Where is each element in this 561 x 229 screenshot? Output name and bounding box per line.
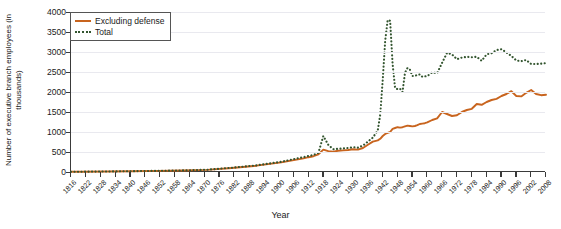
x-axis-tick bbox=[129, 172, 130, 177]
y-axis-tick bbox=[66, 112, 71, 113]
legend-label-total: Total bbox=[95, 27, 113, 37]
gridline bbox=[71, 92, 545, 93]
legend: Excluding defense Total bbox=[70, 12, 171, 41]
gridline bbox=[71, 72, 545, 73]
series-line-excluding-defense bbox=[71, 90, 546, 172]
x-axis-tick bbox=[367, 172, 368, 177]
y-axis-tick bbox=[66, 92, 71, 93]
y-axis-tick-label: 3000 bbox=[26, 47, 66, 57]
x-axis-tick bbox=[85, 172, 86, 177]
x-axis-tick bbox=[70, 172, 71, 177]
x-axis-tick bbox=[337, 172, 338, 177]
x-axis-tick bbox=[397, 172, 398, 177]
x-axis-tick bbox=[263, 172, 264, 177]
y-axis-tick bbox=[66, 72, 71, 73]
x-axis-tick bbox=[174, 172, 175, 177]
x-axis-tick bbox=[115, 172, 116, 177]
x-axis-tick bbox=[204, 172, 205, 177]
chart-root: Number of executive branch employees (in… bbox=[0, 0, 561, 229]
x-axis-tick bbox=[411, 172, 412, 177]
x-axis-tick bbox=[308, 172, 309, 177]
y-axis-title: Number of executive branch employees (in… bbox=[4, 10, 24, 170]
y-axis-tick-label: 1500 bbox=[26, 107, 66, 117]
x-axis-tick bbox=[352, 172, 353, 177]
x-axis-tick bbox=[159, 172, 160, 177]
gridline bbox=[71, 112, 545, 113]
legend-swatch-dotted-icon bbox=[75, 31, 91, 33]
gridline bbox=[71, 152, 545, 153]
y-axis-tick-label: 3500 bbox=[26, 27, 66, 37]
y-axis-tick bbox=[66, 52, 71, 53]
x-axis-tick bbox=[218, 172, 219, 177]
y-axis-tick-label: 4000 bbox=[26, 7, 66, 17]
y-axis-tick-label: 1000 bbox=[26, 127, 66, 137]
gridline bbox=[71, 52, 545, 53]
y-axis-tick-labels: 05001000150020002500300035004000 bbox=[26, 12, 66, 172]
x-axis-title: Year bbox=[0, 210, 561, 220]
x-axis-tick bbox=[530, 172, 531, 177]
legend-item-total: Total bbox=[75, 26, 164, 37]
x-axis-tick-labels: 1816182218281834184018461852185818641870… bbox=[70, 178, 545, 210]
y-axis-title-wrap: Number of executive branch employees (in… bbox=[2, 10, 26, 170]
legend-label-excluding-defense: Excluding defense bbox=[95, 16, 164, 26]
x-axis-tick bbox=[471, 172, 472, 177]
x-axis-tick bbox=[189, 172, 190, 177]
x-axis-tick bbox=[382, 172, 383, 177]
x-axis-tick bbox=[278, 172, 279, 177]
x-axis-tick bbox=[293, 172, 294, 177]
x-axis-tick bbox=[500, 172, 501, 177]
series-line-total bbox=[71, 20, 546, 172]
y-axis-tick-label: 0 bbox=[26, 167, 66, 177]
x-axis-tick bbox=[486, 172, 487, 177]
legend-swatch-solid-icon bbox=[75, 20, 91, 22]
x-axis-tick bbox=[100, 172, 101, 177]
x-axis-tick bbox=[322, 172, 323, 177]
legend-item-excluding-defense: Excluding defense bbox=[75, 15, 164, 26]
x-axis-tick bbox=[248, 172, 249, 177]
x-axis-tick bbox=[144, 172, 145, 177]
x-axis-tick bbox=[545, 172, 546, 177]
x-axis-tick bbox=[515, 172, 516, 177]
y-axis-tick-label: 500 bbox=[26, 147, 66, 157]
x-axis-tick bbox=[233, 172, 234, 177]
x-axis-tick bbox=[441, 172, 442, 177]
gridline bbox=[71, 132, 545, 133]
x-axis-tick bbox=[426, 172, 427, 177]
y-axis-tick bbox=[66, 152, 71, 153]
y-axis-tick-label: 2000 bbox=[26, 87, 66, 97]
y-axis-tick bbox=[66, 132, 71, 133]
y-axis-tick-label: 2500 bbox=[26, 67, 66, 77]
x-axis-tick bbox=[456, 172, 457, 177]
